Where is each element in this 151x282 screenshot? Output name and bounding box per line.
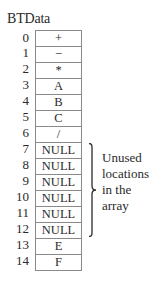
- array-cell: C: [36, 110, 81, 126]
- array-index: 4: [0, 93, 29, 109]
- array-cell: F: [36, 254, 81, 270]
- array-index: 1: [0, 45, 29, 61]
- array-index: 13: [0, 237, 29, 253]
- array-index: 8: [0, 157, 29, 173]
- array-cell: *: [36, 62, 81, 78]
- array-cell-null: NULL: [36, 190, 81, 206]
- note-line: in the: [102, 182, 149, 198]
- array-index: 2: [0, 61, 29, 77]
- array-index: 14: [0, 253, 29, 269]
- index-column: 0 1 2 3 4 5 6 7 8 9 10 11 12 13 14: [0, 30, 29, 269]
- array-cell: −: [36, 46, 81, 62]
- array-index: 12: [0, 221, 29, 237]
- array-index: 5: [0, 109, 29, 125]
- array-index: 10: [0, 189, 29, 205]
- array-index: 0: [0, 30, 29, 45]
- array-title: BTData: [7, 11, 50, 27]
- array-cell: A: [36, 78, 81, 94]
- note-line: locations: [102, 166, 149, 182]
- array-cell: +: [36, 31, 81, 46]
- note-line: Unused: [102, 150, 149, 166]
- array-cell-null: NULL: [36, 142, 81, 158]
- array-table: + − * A B C / NULL NULL NULL NULL NULL N…: [35, 30, 82, 271]
- array-cell: B: [36, 94, 81, 110]
- array-index: 3: [0, 77, 29, 93]
- array-cell-null: NULL: [36, 158, 81, 174]
- array-cell-null: NULL: [36, 206, 81, 222]
- note-line: array: [102, 198, 149, 214]
- array-index: 9: [0, 173, 29, 189]
- array-cell-null: NULL: [36, 174, 81, 190]
- array-cell: /: [36, 126, 81, 142]
- array-cell: E: [36, 238, 81, 254]
- curly-brace-icon: [88, 143, 98, 237]
- unused-locations-note: Unused locations in the array: [102, 150, 149, 214]
- array-cell-null: NULL: [36, 222, 81, 238]
- array-index: 7: [0, 141, 29, 157]
- array-index: 6: [0, 125, 29, 141]
- array-index: 11: [0, 205, 29, 221]
